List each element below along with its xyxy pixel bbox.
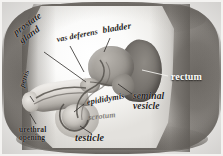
label-seminal-line1: seminal [133,91,164,101]
epididymis-duct [60,104,88,131]
leader-vas-deferens [70,46,84,72]
anatomy-figure: prostate gland vas deferens bladder rect… [0,0,223,156]
leader-bladder [104,38,110,52]
label-testicle: testicle [75,133,104,143]
label-rectum: rectum [171,72,202,82]
leader-prostate [44,52,86,82]
leader-rectum [142,70,168,76]
leader-urethral-opening [30,114,36,124]
label-urethral-line2: opening [19,134,46,142]
ejaculatory-duct [90,82,112,86]
label-seminal-vesicle: seminal vesicle [133,92,164,112]
label-urethral-opening: urethral opening [19,126,46,142]
label-seminal-line2: vesicle [133,102,164,112]
leader-penis [30,96,34,102]
